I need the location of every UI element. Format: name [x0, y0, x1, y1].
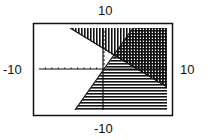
graph-screen [0, 0, 208, 140]
y-max-label: 10 [98, 4, 112, 17]
x-min-label: -10 [3, 63, 22, 76]
y-min-label: -10 [94, 122, 113, 135]
x-max-label: 10 [180, 63, 194, 76]
